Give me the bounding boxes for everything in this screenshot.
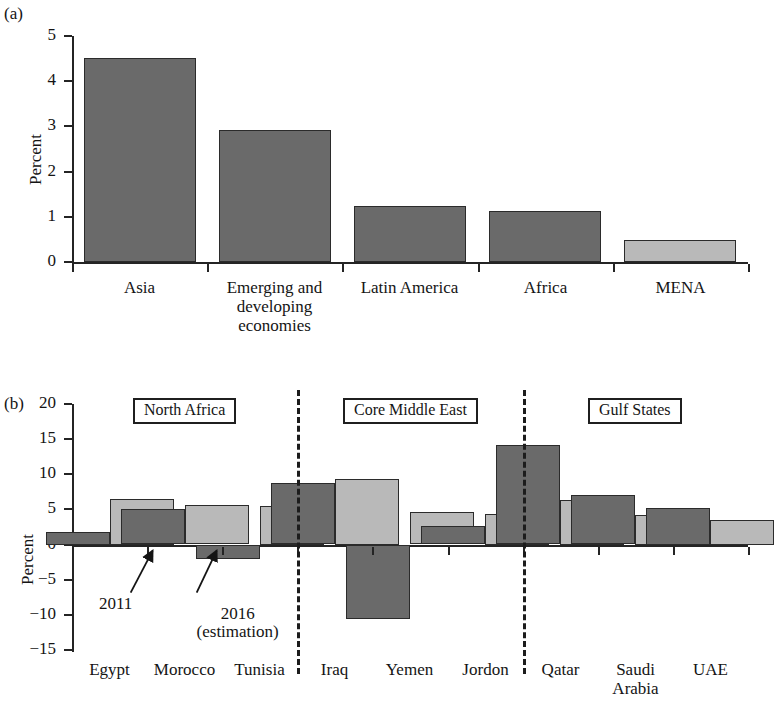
panel-a-x-category-label: MENA <box>613 278 748 297</box>
panel-a-x-tick <box>748 264 750 272</box>
panel-a-y-tick-label: 0 <box>16 251 56 271</box>
panel-b-plot-area: −15−10−505101520EgyptMoroccoTunisiaIraqY… <box>0 360 754 706</box>
panel-a-x-tick <box>613 264 615 272</box>
panel-a-y-tick <box>64 216 72 218</box>
panel-a-y-axis-line <box>72 36 74 264</box>
panel-a-x-axis-line <box>72 262 748 264</box>
panel-a-x-category-label: Emerging anddevelopingeconomies <box>207 278 342 335</box>
panel-a-bar <box>84 58 196 262</box>
panel-a-bar <box>624 240 736 262</box>
panel-b-annotation-2016-year: 2016 <box>163 605 313 624</box>
panel-a-y-tick-label: 4 <box>16 70 56 90</box>
panel-a-y-tick <box>64 35 72 37</box>
panel-a-x-category-line: Emerging and <box>207 278 342 297</box>
panel-a: (a) Percent 012345AsiaEmerging anddevelo… <box>0 0 754 360</box>
panel-a-x-category-line: Asia <box>72 278 207 297</box>
panel-a-y-tick <box>64 261 72 263</box>
panel-a-bar <box>219 130 331 262</box>
panel-b-annotation-arrows <box>0 360 754 706</box>
panel-a-y-tick-label: 1 <box>16 206 56 226</box>
panel-a-y-tick <box>64 125 72 127</box>
panel-a-x-category-line: Africa <box>478 278 613 297</box>
panel-a-x-tick <box>207 264 209 272</box>
panel-b-annotation-2016-estimation: (estimation) <box>163 623 313 642</box>
panel-a-y-tick <box>64 171 72 173</box>
panel-a-y-tick-label: 5 <box>16 25 56 45</box>
panel-b-annotation-2016: 2016(estimation) <box>163 605 313 642</box>
panel-a-x-tick <box>342 264 344 272</box>
panel-b-annotation-2011: 2011 <box>81 595 151 614</box>
panel-a-x-category-label: Latin America <box>342 278 477 297</box>
panel-a-plot-area: 012345AsiaEmerging anddevelopingeconomie… <box>0 0 754 360</box>
panel-a-x-category-line: economies <box>207 316 342 335</box>
panel-b: (b) Percent −15−10−505101520EgyptMorocco… <box>0 360 754 706</box>
panel-a-x-category-label: Asia <box>72 278 207 297</box>
panel-a-bar <box>489 211 601 262</box>
panel-a-x-category-label: Africa <box>478 278 613 297</box>
panel-a-y-tick-label: 2 <box>16 161 56 181</box>
panel-a-x-category-line: Latin America <box>342 278 477 297</box>
panel-a-x-tick <box>478 264 480 272</box>
panel-a-x-tick <box>72 264 74 272</box>
panel-a-y-tick <box>64 80 72 82</box>
panel-a-y-tick-label: 3 <box>16 115 56 135</box>
panel-a-x-category-line: developing <box>207 297 342 316</box>
panel-a-bar <box>354 206 466 262</box>
panel-a-x-category-line: MENA <box>613 278 748 297</box>
